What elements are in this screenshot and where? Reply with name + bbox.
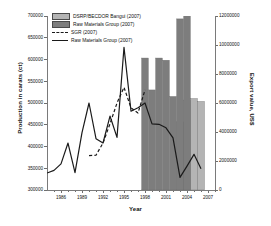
y-tick-label-right: 10000000: [219, 42, 253, 47]
y-tick-label-left: 700000: [15, 13, 43, 18]
legend-solid-line-icon: [52, 38, 68, 43]
legend-label: Raw Materials Group (2007): [73, 22, 134, 28]
legend-item[interactable]: Raw Materials Group (2007): [52, 21, 146, 28]
legend-swatch-icon: [52, 21, 70, 28]
y-tick-label-right: 0: [219, 187, 253, 192]
bars-layer: [142, 16, 205, 190]
legend-dashed-line-icon: [52, 30, 68, 35]
y-axis-right-title: Export value, US$: [249, 39, 255, 159]
legend-item[interactable]: SGR (2007): [52, 29, 146, 36]
legend-swatch-icon: [52, 13, 70, 20]
legend-label: Raw Materials Group (2007): [71, 38, 132, 44]
y-tick-label-left: 600000: [15, 57, 43, 62]
legend-item[interactable]: Raw Materials Group (2007): [52, 37, 146, 44]
y-tick-label-right: 6000000: [219, 100, 253, 105]
x-axis-spine: [47, 190, 215, 191]
y-tick-label-left: 400000: [15, 144, 43, 149]
bar: [142, 58, 149, 190]
y-tick-label-right: 4000000: [219, 129, 253, 134]
y-tick-label-right: 8000000: [219, 71, 253, 76]
y-tick-label-right: 12000000: [219, 13, 253, 18]
line-series-dashed: [89, 87, 145, 155]
chart-legend: DSRP/BECDOR Bangui (2007)Raw Materials G…: [52, 13, 146, 45]
legend-item[interactable]: DSRP/BECDOR Bangui (2007): [52, 13, 146, 20]
legend-label: SGR (2007): [71, 30, 97, 36]
bar-series: [142, 16, 191, 190]
y-axis-right-spine: [215, 16, 216, 190]
bar: [184, 16, 191, 190]
y-tick-label-left: 650000: [15, 35, 43, 40]
bar: [191, 99, 198, 190]
y-tick-label-left: 550000: [15, 79, 43, 84]
bar: [163, 60, 170, 190]
production-export-chart: Production in carats (ct) Export value, …: [0, 0, 271, 226]
bar: [170, 96, 177, 190]
y-tick-label-left: 500000: [15, 100, 43, 105]
y-tick-label-right: 2000000: [219, 158, 253, 163]
x-tick-label: 2007: [194, 195, 222, 200]
y-tick-label-left: 450000: [15, 122, 43, 127]
legend-label: DSRP/BECDOR Bangui (2007): [73, 14, 141, 20]
y-tick-label-left: 300000: [15, 187, 43, 192]
bar: [149, 90, 156, 190]
y-tick-label-left: 350000: [15, 166, 43, 171]
x-axis-title: Year: [0, 206, 271, 212]
bar: [198, 102, 205, 190]
